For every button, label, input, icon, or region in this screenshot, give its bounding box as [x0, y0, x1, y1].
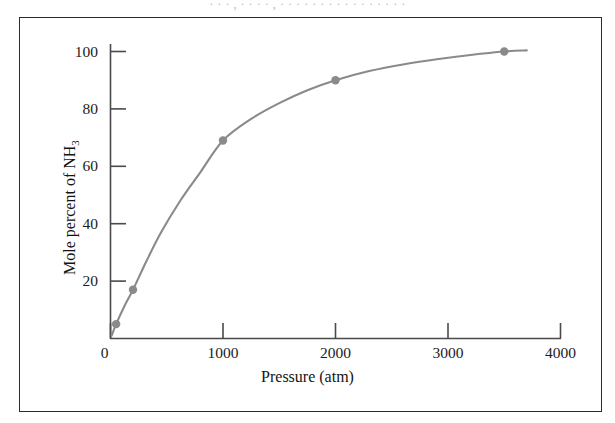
y-axis-title: Mole percent of NH3 — [61, 93, 80, 323]
y-tick-marks — [111, 52, 127, 282]
data-point-3500-atm — [500, 47, 508, 55]
y-axis-title-text: Mole percent of NH3 — [61, 140, 78, 275]
x-tick-label-0: 0 — [101, 344, 109, 362]
x-tick-label-4000: 4000 — [545, 344, 576, 362]
axis-lines — [110, 44, 561, 339]
x-tick-label-2000: 2000 — [320, 344, 351, 362]
x-axis-title: Pressure (atm) — [0, 368, 615, 386]
data-point-50-atm — [112, 320, 120, 328]
y-tick-label-100: 100 — [50, 43, 98, 61]
x-tick-marks — [111, 323, 561, 339]
chart-plot-area — [0, 0, 615, 423]
data-point-200-atm — [129, 286, 137, 294]
data-curve — [112, 50, 527, 335]
data-point-2000-atm — [331, 76, 339, 84]
data-point-1000-atm — [219, 136, 227, 144]
x-tick-label-3000: 3000 — [433, 344, 464, 362]
x-tick-label-1000: 1000 — [208, 344, 239, 362]
